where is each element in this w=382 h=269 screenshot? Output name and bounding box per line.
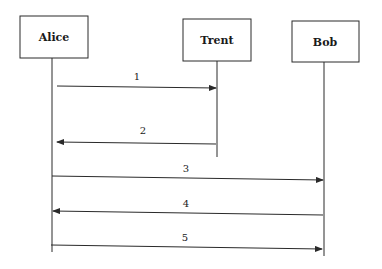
sequence-diagram: Alice Trent Bob 1 2 3 4 5: [0, 0, 382, 269]
message-5: 5: [51, 232, 322, 249]
actor-alice: Alice: [20, 16, 88, 252]
actor-label-alice: Alice: [38, 31, 70, 44]
actor-label-bob: Bob: [313, 36, 338, 49]
message-label-2: 2: [140, 125, 146, 136]
message-label-5: 5: [182, 232, 188, 243]
arrow-right-icon: [57, 86, 216, 88]
message-1: 1: [57, 71, 216, 88]
actor-label-trent: Trent: [200, 34, 234, 47]
message-label-3: 3: [183, 163, 189, 174]
message-2: 2: [57, 125, 216, 144]
arrow-right-icon: [51, 245, 322, 249]
actor-bob: Bob: [292, 21, 359, 256]
arrow-left-icon: [57, 142, 216, 144]
arrow-left-icon: [53, 211, 323, 215]
message-3: 3: [52, 163, 323, 180]
message-label-1: 1: [134, 71, 140, 82]
message-label-4: 4: [183, 198, 189, 209]
arrow-right-icon: [52, 176, 323, 180]
message-4: 4: [53, 198, 323, 215]
